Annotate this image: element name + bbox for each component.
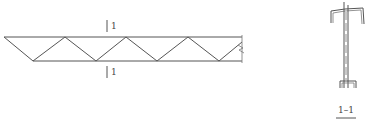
break-symbol-icon: [238, 45, 244, 53]
section-mark-top-label: 1: [111, 22, 117, 31]
truss-elevation: [4, 20, 244, 78]
truss-drawing: [0, 0, 366, 134]
web-diagonals: [4, 37, 242, 61]
section-label: 1–1: [338, 106, 354, 115]
section-1-1: [331, 2, 364, 118]
section-mark-bottom-label: 1: [111, 68, 117, 77]
